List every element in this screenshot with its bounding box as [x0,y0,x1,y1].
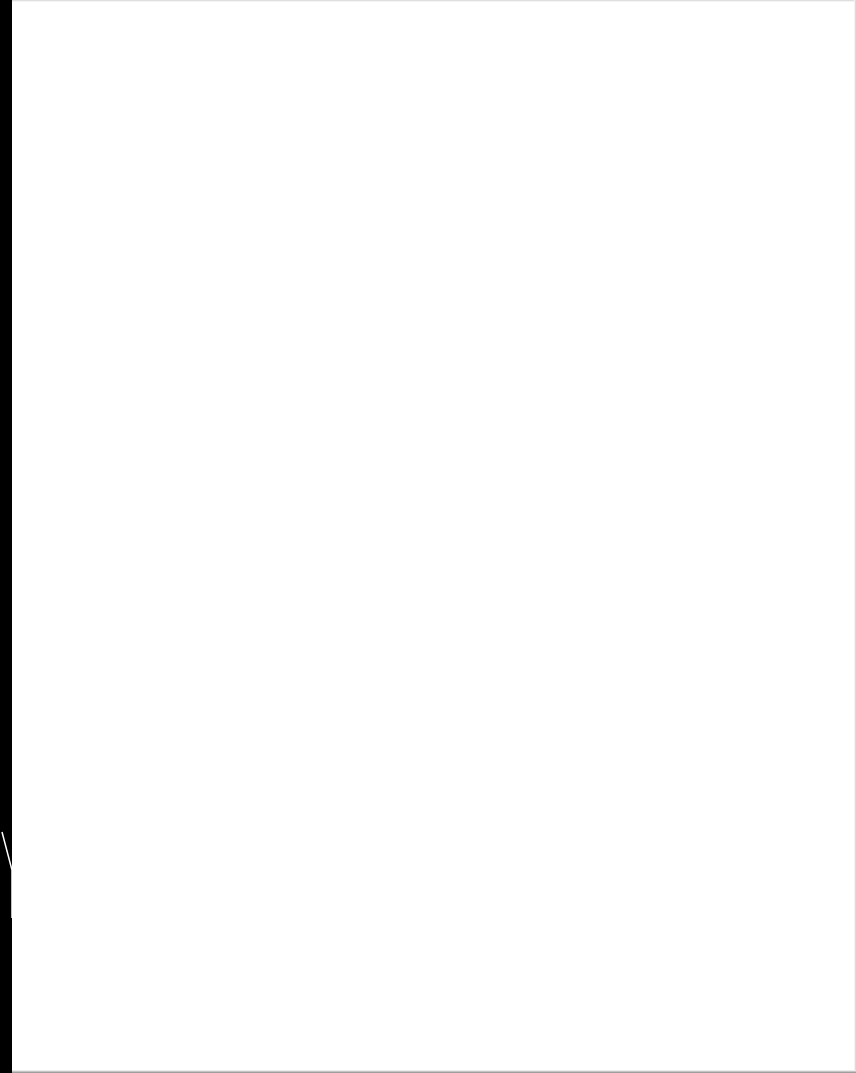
scanned-page [0,0,856,1073]
blank-page-content [12,2,854,1070]
